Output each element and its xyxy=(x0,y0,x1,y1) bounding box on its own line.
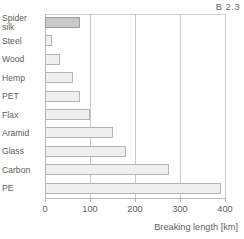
bar-row xyxy=(45,69,225,87)
x-tick-100 xyxy=(90,198,91,202)
bar-row xyxy=(45,14,225,32)
category-label-steel: Steel xyxy=(2,37,43,46)
bar-pe xyxy=(45,183,221,194)
category-label-hemp: Hemp xyxy=(2,74,43,83)
x-tick-label-200: 200 xyxy=(127,204,142,214)
category-label-pet: PET xyxy=(2,92,43,101)
figure-reference-code: B 2.3 xyxy=(216,1,240,12)
bar-row xyxy=(45,51,225,69)
bar-pet xyxy=(45,91,80,102)
x-tick-label-300: 300 xyxy=(172,204,187,214)
x-tick-400 xyxy=(225,198,226,202)
category-axis: Spider silkSteelWoodHempPETFlaxAramidGla… xyxy=(0,14,43,198)
x-tick-300 xyxy=(180,198,181,202)
category-label-flax: Flax xyxy=(2,111,43,120)
bar-row xyxy=(45,88,225,106)
category-label-pe: PE xyxy=(2,184,43,193)
gridline-400 xyxy=(225,14,226,198)
bar-row xyxy=(45,32,225,50)
bar-steel xyxy=(45,35,52,46)
bar-row xyxy=(45,143,225,161)
bar-glass xyxy=(45,146,126,157)
category-label-carbon: Carbon xyxy=(2,166,43,175)
bar-hemp xyxy=(45,72,73,83)
bar-chart-figure: B 2.3 Spider silkSteelWoodHempPETFlaxAra… xyxy=(0,0,244,239)
category-label-glass: Glass xyxy=(2,147,43,156)
bar-carbon xyxy=(45,164,169,175)
bar-wood xyxy=(45,54,60,65)
x-tick-label-0: 0 xyxy=(42,204,47,214)
bar-flax xyxy=(45,109,90,120)
bar-row xyxy=(45,106,225,124)
bar-row xyxy=(45,180,225,198)
category-label-spider-silk: Spider silk xyxy=(2,14,43,32)
x-axis-title: Breaking length [km] xyxy=(154,222,238,232)
x-tick-label-400: 400 xyxy=(217,204,232,214)
bar-aramid xyxy=(45,127,113,138)
x-tick-200 xyxy=(135,198,136,202)
plot-area xyxy=(45,14,225,198)
x-tick-0 xyxy=(45,198,46,202)
x-tick-label-100: 100 xyxy=(82,204,97,214)
bar-row xyxy=(45,124,225,142)
category-label-wood: Wood xyxy=(2,55,43,64)
bar-spider-silk xyxy=(45,17,80,28)
bar-row xyxy=(45,161,225,179)
category-label-aramid: Aramid xyxy=(2,129,43,138)
